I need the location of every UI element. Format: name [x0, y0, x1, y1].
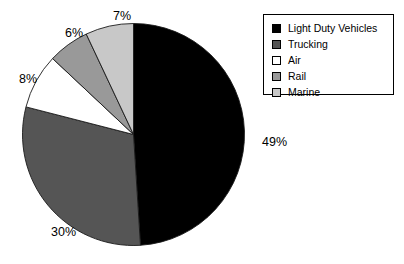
legend-swatch-icon — [272, 88, 281, 97]
legend-swatch-icon — [272, 24, 281, 33]
legend-item-label: Rail — [288, 71, 306, 82]
pie-percent-label-marine: 7% — [113, 9, 131, 23]
pie-slice-light-duty-vehicles — [134, 24, 245, 246]
legend-item-label: Trucking — [288, 39, 328, 50]
pie-percent-label-trucking: 30% — [51, 225, 76, 239]
pie-slice-group — [23, 24, 245, 246]
legend-swatch-icon — [272, 72, 281, 81]
legend-item-label: Light Duty Vehicles — [288, 23, 377, 34]
chart-legend: Light Duty VehiclesTruckingAirRailMarine — [263, 14, 394, 95]
legend-item-label: Marine — [288, 87, 320, 98]
legend-item-rail[interactable]: Rail — [272, 69, 387, 83]
legend-item-list: Light Duty VehiclesTruckingAirRailMarine — [272, 21, 387, 99]
legend-swatch-icon — [272, 40, 281, 49]
pie-percent-label-rail: 6% — [65, 26, 83, 40]
legend-item-air[interactable]: Air — [272, 53, 387, 67]
pie-chart-figure: 49%30%8%6%7% Light Duty VehiclesTrucking… — [0, 0, 404, 264]
legend-swatch-icon — [272, 56, 281, 65]
legend-item-marine[interactable]: Marine — [272, 85, 387, 99]
legend-item-label: Air — [288, 55, 301, 66]
legend-item-trucking[interactable]: Trucking — [272, 37, 387, 51]
pie-percent-label-air: 8% — [19, 72, 37, 86]
legend-item-light-duty-vehicles[interactable]: Light Duty Vehicles — [272, 21, 387, 35]
pie-percent-label-light-duty-vehicles: 49% — [262, 135, 287, 149]
